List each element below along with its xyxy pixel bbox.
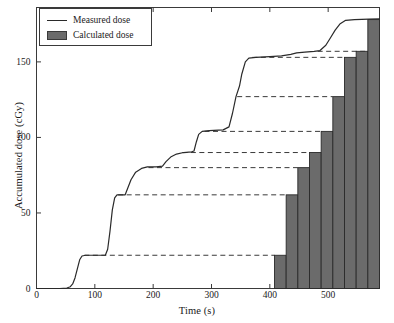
legend-label-measured: Measured dose bbox=[73, 15, 130, 26]
calculated-dose-bar bbox=[310, 153, 322, 289]
calculated-dose-bar bbox=[356, 51, 368, 288]
x-tick-label: 100 bbox=[88, 290, 102, 300]
bar-swatch-icon bbox=[47, 31, 67, 40]
line-marker-icon bbox=[47, 20, 67, 21]
calculated-dose-bars bbox=[275, 20, 380, 289]
chart-figure bbox=[0, 0, 394, 323]
calculated-dose-bar bbox=[333, 97, 345, 289]
chart-legend: Measured dose Calculated dose bbox=[39, 8, 152, 46]
x-axis-label: Time (s) bbox=[0, 305, 394, 316]
calculated-dose-bar bbox=[345, 57, 357, 288]
calculated-dose-bar bbox=[368, 20, 380, 289]
x-tick-label: 400 bbox=[263, 290, 277, 300]
y-tick-label: 150 bbox=[2, 57, 31, 67]
legend-item-calculated-dose: Calculated dose bbox=[45, 28, 146, 43]
y-tick-label: 50 bbox=[2, 208, 31, 218]
x-tick-label: 300 bbox=[204, 290, 218, 300]
calculated-dose-bar bbox=[298, 168, 310, 289]
x-tick-label: 500 bbox=[321, 290, 335, 300]
x-tick-label: 200 bbox=[146, 290, 160, 300]
legend-label-calculated: Calculated dose bbox=[73, 30, 133, 41]
x-tick-label: 0 bbox=[34, 290, 39, 300]
calculated-dose-bar bbox=[275, 255, 287, 288]
legend-item-measured-dose: Measured dose bbox=[45, 13, 146, 28]
y-tick-label: 100 bbox=[2, 132, 31, 142]
y-tick-label: 0 bbox=[2, 284, 31, 294]
calculated-dose-bar bbox=[286, 195, 298, 289]
calculated-dose-bar bbox=[321, 131, 333, 288]
